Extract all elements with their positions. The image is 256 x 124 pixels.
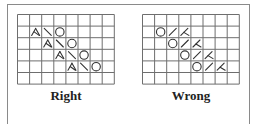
symbol-yo-icon	[169, 39, 177, 47]
symbol-yo-icon	[56, 28, 64, 36]
symbol-backslash-icon	[81, 63, 88, 70]
symbol-yo-icon	[68, 39, 76, 47]
symbol-yo-icon	[92, 63, 100, 71]
symbol-ssk-icon	[32, 28, 40, 35]
symbol-slash-icon	[181, 40, 188, 47]
symbol-yo-icon	[156, 28, 164, 36]
symbol-yo-icon	[80, 51, 88, 59]
symbol-slash-icon	[206, 63, 213, 70]
symbol-ssk-icon	[44, 40, 52, 47]
symbol-k2tog-icon	[205, 52, 213, 59]
caption-wrong: Wrong	[141, 88, 241, 104]
symbol-backslash-icon	[68, 52, 75, 59]
symbol-slash-icon	[169, 28, 176, 35]
symbol-yo-icon	[193, 63, 201, 71]
symbol-ssk-icon	[56, 52, 64, 59]
symbol-k2tog-icon	[181, 28, 189, 35]
symbol-slash-icon	[193, 52, 200, 59]
caption-right: Right	[16, 88, 116, 104]
symbol-k2tog-icon	[217, 63, 225, 70]
symbol-backslash-icon	[56, 40, 63, 47]
symbol-backslash-icon	[44, 28, 51, 35]
chart-grid-wrong	[142, 14, 240, 85]
symbol-yo-icon	[181, 51, 189, 59]
chart-grid-right	[17, 14, 115, 85]
symbol-k2tog-icon	[193, 40, 201, 47]
symbol-ssk-icon	[68, 63, 76, 70]
